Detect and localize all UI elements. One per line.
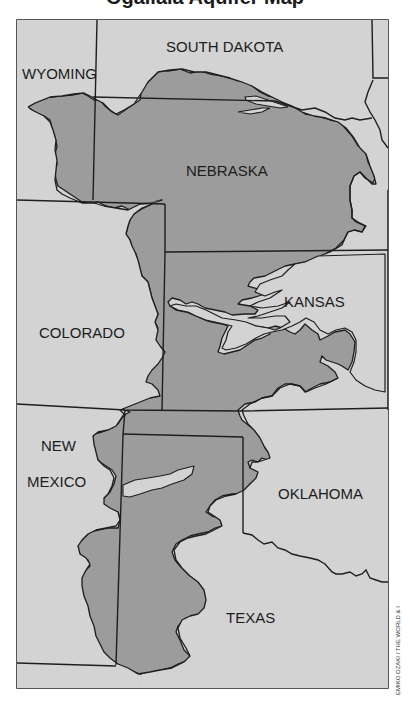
label-new-mexico-line2: MEXICO	[27, 473, 86, 490]
label-colorado: COLORADO	[39, 324, 125, 341]
map-credit: EMIKO OZAKI / THE WORLD & I	[395, 605, 405, 695]
label-new-mexico-line1: NEW	[41, 437, 77, 454]
label-texas: TEXAS	[226, 609, 275, 626]
aquifer-map: SOUTH DAKOTA WYOMING NEBRASKA COLORADO K…	[0, 0, 410, 709]
label-kansas: KANSAS	[284, 293, 345, 310]
label-south-dakota: SOUTH DAKOTA	[166, 38, 283, 55]
label-wyoming: WYOMING	[22, 65, 97, 82]
label-oklahoma: OKLAHOMA	[278, 485, 363, 502]
label-nebraska: NEBRASKA	[186, 162, 268, 179]
